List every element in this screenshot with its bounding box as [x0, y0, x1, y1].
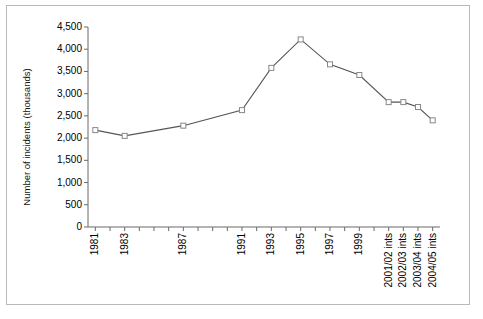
- data-point-marker: [416, 105, 421, 110]
- y-tick-label: 4,500: [38, 22, 82, 32]
- x-tick-label: 2001/02 ints: [383, 233, 394, 313]
- x-tick-label: 1995: [295, 233, 306, 313]
- chart-svg: [88, 27, 440, 227]
- data-point-marker: [269, 65, 274, 70]
- plot-area: [88, 27, 440, 227]
- y-tick-label: 2,500: [38, 111, 82, 121]
- x-tick-label: 1981: [89, 233, 100, 313]
- y-tick-label: 1,500: [38, 155, 82, 165]
- x-tick-label: 1997: [324, 233, 335, 313]
- x-axis-tick-labels: 198119831987199119931995199719992001/02 …: [88, 231, 440, 311]
- x-tick-label: 2004/05 ints: [427, 233, 438, 313]
- y-tick-label: 1,000: [38, 178, 82, 188]
- y-axis-tick-labels: 4,5004,0003,5003,0002,5002,0001,5001,000…: [36, 22, 82, 232]
- y-tick-label: 2,000: [38, 133, 82, 143]
- data-point-marker: [122, 133, 127, 138]
- y-axis-title: Number of incidents (thousands): [21, 37, 35, 237]
- x-tick-label: 1983: [119, 233, 130, 313]
- data-point-marker: [298, 37, 303, 42]
- x-tick-label: 1987: [177, 233, 188, 313]
- data-point-marker: [93, 128, 98, 133]
- data-point-marker: [430, 118, 435, 123]
- data-point-marker: [240, 108, 245, 113]
- data-line: [95, 39, 432, 135]
- data-point-marker: [386, 100, 391, 105]
- data-point-marker: [357, 73, 362, 78]
- chart-figure: Number of incidents (thousands) 4,5004,0…: [0, 0, 483, 319]
- y-tick-label: 500: [38, 200, 82, 210]
- y-tick-label: 3,500: [38, 66, 82, 76]
- y-tick-label: 4,000: [38, 44, 82, 54]
- y-tick-label: 3,000: [38, 89, 82, 99]
- x-tick-label: 1993: [265, 233, 276, 313]
- x-tick-label: 2002/03 ints: [397, 233, 408, 313]
- x-tick-label: 1991: [236, 233, 247, 313]
- x-tick-label: 1999: [353, 233, 364, 313]
- y-tick-label: 0: [38, 222, 82, 232]
- data-point-marker: [328, 62, 333, 67]
- x-tick-label: 2003/04 ints: [412, 233, 423, 313]
- data-point-marker: [401, 100, 406, 105]
- data-point-marker: [181, 123, 186, 128]
